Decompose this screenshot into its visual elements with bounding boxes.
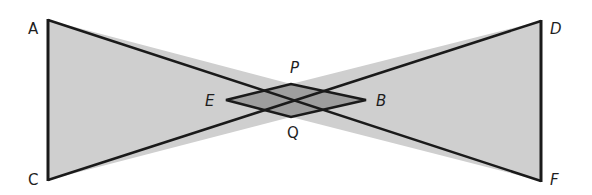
label-D: D [550, 20, 562, 38]
bowtie-diagram: A C D F P Q E B [0, 0, 592, 195]
label-E: E [205, 92, 215, 110]
label-F: F [550, 171, 559, 189]
label-Q: Q [287, 124, 299, 142]
diagram-svg: A C D F P Q E B [0, 0, 592, 195]
label-P: P [290, 59, 300, 77]
label-A: A [28, 20, 39, 38]
label-C: C [28, 171, 38, 189]
label-B: B [376, 92, 386, 110]
